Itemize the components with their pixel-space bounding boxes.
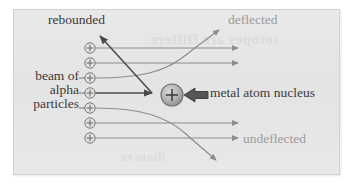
- beam-label-line-2: alpha: [13, 83, 79, 97]
- alpha-particles: [85, 43, 95, 143]
- scattering-figure: sotopes are Differe llium ex: [0, 0, 352, 183]
- beam-label-line-1: beam of: [13, 69, 79, 83]
- deflected-trajectory-lower: [95, 108, 216, 160]
- label-undeflected: undeflected: [243, 132, 306, 146]
- label-rebounded: rebounded: [48, 13, 105, 27]
- beam-label-line-3: particles: [13, 97, 79, 111]
- deflected-trajectory-upper: [95, 30, 219, 78]
- beam-leader-lines: [79, 78, 85, 108]
- nucleus-pointer-arrow: [184, 88, 208, 102]
- label-beam-of-alpha-particles: beam of alpha particles: [13, 69, 79, 112]
- nucleus-group: [161, 84, 183, 106]
- rebounded-trajectory: [95, 36, 152, 93]
- label-deflected: deflected: [228, 13, 277, 27]
- label-metal-atom-nucleus: metal atom nucleus: [210, 86, 315, 100]
